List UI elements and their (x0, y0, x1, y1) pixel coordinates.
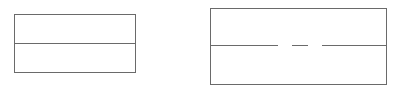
figure-canvas (0, 0, 401, 92)
right-figure (210, 9, 387, 85)
line-art-diagram (0, 0, 401, 92)
left-figure (14, 15, 136, 73)
right-rectangle-outline (211, 9, 387, 85)
